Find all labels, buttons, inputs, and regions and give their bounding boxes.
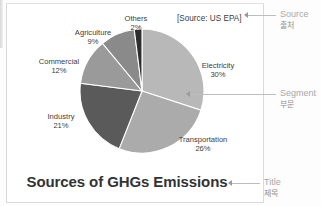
annotation-title-label-en: Title [264,177,281,187]
annotation-segment-label-en: Segment [280,88,316,98]
pie-label-electricity-name: Electricity [202,61,235,70]
pie-label-industry-name: Industry [47,112,74,121]
leader-line [190,94,276,95]
pie-label-electricity-percent: 30% [189,70,247,79]
page-edge-shadow [0,0,3,48]
pie-label-agriculture: Agriculture 9% [65,28,121,47]
leader-line [232,183,260,184]
annotation-source-label-en: Source [280,9,309,19]
pie-label-others-name: Others [125,14,148,23]
slide-frame: Others 2% Agriculture 9% Commercial 12% … [6,3,264,203]
pie-label-industry-percent: 21% [37,121,85,130]
pie-label-industry: Industry 21% [37,112,85,131]
pie-label-agriculture-percent: 9% [65,37,121,46]
pie-label-electricity: Electricity 30% [189,61,247,80]
slide-page: Others 2% Agriculture 9% Commercial 12% … [0,0,321,206]
annotation-source-label-ko: 출처 [280,19,294,30]
annotation-title-label-ko: 제목 [264,187,278,198]
pie-label-commercial-percent: 12% [30,66,88,75]
pie-label-transportation-name: Transportation [179,135,228,144]
chart-title: Sources of GHGs Emissions [21,173,233,190]
annotation-segment-label-ko: 부문 [280,98,294,109]
pie-label-agriculture-name: Agriculture [75,28,111,37]
pie-label-transportation-percent: 26% [167,144,239,153]
pie-label-transportation: Transportation 26% [167,135,239,154]
leader-line [248,15,276,16]
pie-label-commercial: Commercial 12% [30,57,88,76]
source-note: [Source: US EPA] [177,14,241,23]
pie-label-commercial-name: Commercial [39,57,80,66]
